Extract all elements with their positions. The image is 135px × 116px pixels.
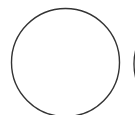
partial-circle-outline [134, 10, 135, 115]
drawing-canvas [0, 0, 135, 115]
circle-outline [12, 9, 120, 116]
